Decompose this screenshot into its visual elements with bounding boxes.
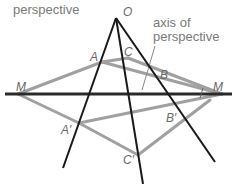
center-of-perspective-label: perspective	[13, 3, 79, 16]
line-AC	[18, 62, 102, 94]
point-M-left-label: M	[16, 81, 26, 93]
point-B-label: B	[160, 69, 168, 81]
point-Aprime-label: A′	[61, 124, 71, 136]
point-O-label: O	[123, 6, 132, 18]
line-M-left-to-Aprime	[18, 94, 79, 123]
point-Bprime-label: B′	[166, 112, 176, 124]
point-M-right-label: M	[213, 81, 223, 93]
desargues-diagram	[0, 0, 240, 184]
axis-label-line1: axis of	[153, 16, 191, 29]
point-A-label: A	[90, 51, 98, 63]
point-C-label: C	[124, 46, 133, 58]
point-Cprime-label: C′	[123, 154, 134, 166]
triangle-lines	[18, 58, 222, 155]
line-Aprime-to-Cprime	[79, 123, 138, 155]
axis-label-line2: perspective	[153, 30, 219, 43]
